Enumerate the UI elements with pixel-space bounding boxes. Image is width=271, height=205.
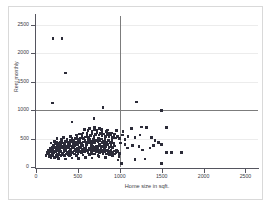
y-axis-title: Rent monthly	[14, 61, 19, 92]
gridline-horizontal	[36, 53, 258, 54]
data-point	[68, 155, 71, 158]
data-point	[81, 133, 84, 136]
data-point	[113, 145, 116, 148]
x-tick-label: 1000	[114, 174, 126, 179]
data-point	[86, 132, 89, 135]
data-point	[102, 106, 105, 109]
data-point	[138, 145, 141, 148]
data-point	[91, 130, 94, 133]
data-point	[127, 135, 130, 138]
y-tick-mark	[31, 139, 35, 140]
x-tick-label: 2500	[240, 174, 252, 179]
plot-area	[36, 16, 258, 167]
data-point	[130, 127, 133, 130]
data-point	[71, 157, 74, 160]
y-tick-mark	[31, 25, 35, 26]
data-point	[165, 151, 168, 154]
data-point	[140, 126, 143, 129]
data-point	[61, 37, 64, 40]
gridline-horizontal	[36, 25, 258, 26]
data-point	[83, 128, 86, 131]
data-point	[96, 129, 99, 132]
y-tick-label: 500	[20, 136, 29, 141]
data-point	[160, 109, 163, 112]
data-point	[51, 102, 54, 105]
data-point	[77, 157, 80, 160]
gridline-horizontal	[36, 82, 258, 83]
data-point	[93, 117, 96, 120]
data-point	[117, 159, 120, 162]
data-point	[113, 133, 116, 136]
data-point	[119, 142, 122, 145]
data-point	[152, 144, 155, 147]
data-point	[145, 126, 148, 129]
y-tick-mark	[31, 53, 35, 54]
data-point	[82, 154, 85, 157]
data-point	[69, 135, 72, 138]
data-point	[120, 162, 123, 165]
x-tick-label: 1500	[156, 174, 168, 179]
data-point	[53, 140, 56, 143]
data-point	[93, 153, 96, 156]
data-point	[56, 137, 59, 140]
y-tick-label: 2500	[17, 22, 29, 27]
data-point	[60, 138, 63, 141]
data-point	[118, 155, 121, 158]
data-point	[93, 128, 96, 131]
y-tick-mark	[31, 167, 35, 168]
data-point	[56, 142, 59, 145]
data-point	[126, 147, 129, 150]
data-point	[97, 154, 100, 157]
data-point	[118, 137, 121, 140]
data-point	[45, 154, 48, 157]
plot-region	[36, 16, 258, 167]
data-point	[115, 129, 118, 132]
data-point	[165, 126, 168, 129]
x-axis-line	[35, 168, 259, 169]
data-point	[88, 127, 91, 130]
data-point	[150, 136, 153, 139]
data-point	[122, 130, 125, 133]
data-point	[170, 151, 173, 154]
x-tick-label: 2000	[198, 174, 210, 179]
data-point	[113, 153, 116, 156]
data-point	[91, 157, 94, 160]
data-point	[52, 37, 55, 40]
data-point	[64, 72, 67, 75]
data-point	[124, 143, 127, 146]
data-point	[90, 152, 93, 155]
data-point	[118, 152, 121, 155]
data-point	[124, 138, 127, 141]
y-tick-label: 2000	[17, 50, 29, 55]
data-point	[154, 139, 157, 142]
data-point	[160, 143, 163, 146]
y-tick-mark	[31, 110, 35, 111]
data-point	[74, 137, 77, 140]
data-point	[157, 141, 160, 144]
data-point	[71, 121, 74, 124]
data-point	[104, 156, 107, 159]
data-point	[121, 134, 124, 137]
data-point	[101, 131, 104, 134]
y-axis-line	[35, 14, 36, 169]
data-point	[149, 147, 152, 150]
data-point	[101, 145, 104, 148]
data-point	[64, 158, 67, 161]
reference-line-horizontal	[36, 110, 258, 111]
data-point	[134, 158, 137, 161]
data-point	[141, 149, 144, 152]
scatter-plot-figure: 0500100015002000250005001000150020002500…	[0, 0, 271, 205]
data-point	[131, 144, 134, 147]
data-point	[135, 101, 138, 104]
data-point	[134, 136, 137, 139]
data-point	[111, 155, 114, 158]
data-point	[62, 136, 65, 139]
data-point	[87, 151, 90, 154]
x-tick-label: 500	[74, 174, 83, 179]
data-point	[180, 151, 183, 154]
data-point	[75, 154, 78, 157]
data-point	[50, 142, 53, 145]
x-axis-title: Home size in sqft.	[36, 184, 258, 190]
y-tick-label: 1000	[17, 107, 29, 112]
data-point	[139, 134, 142, 137]
